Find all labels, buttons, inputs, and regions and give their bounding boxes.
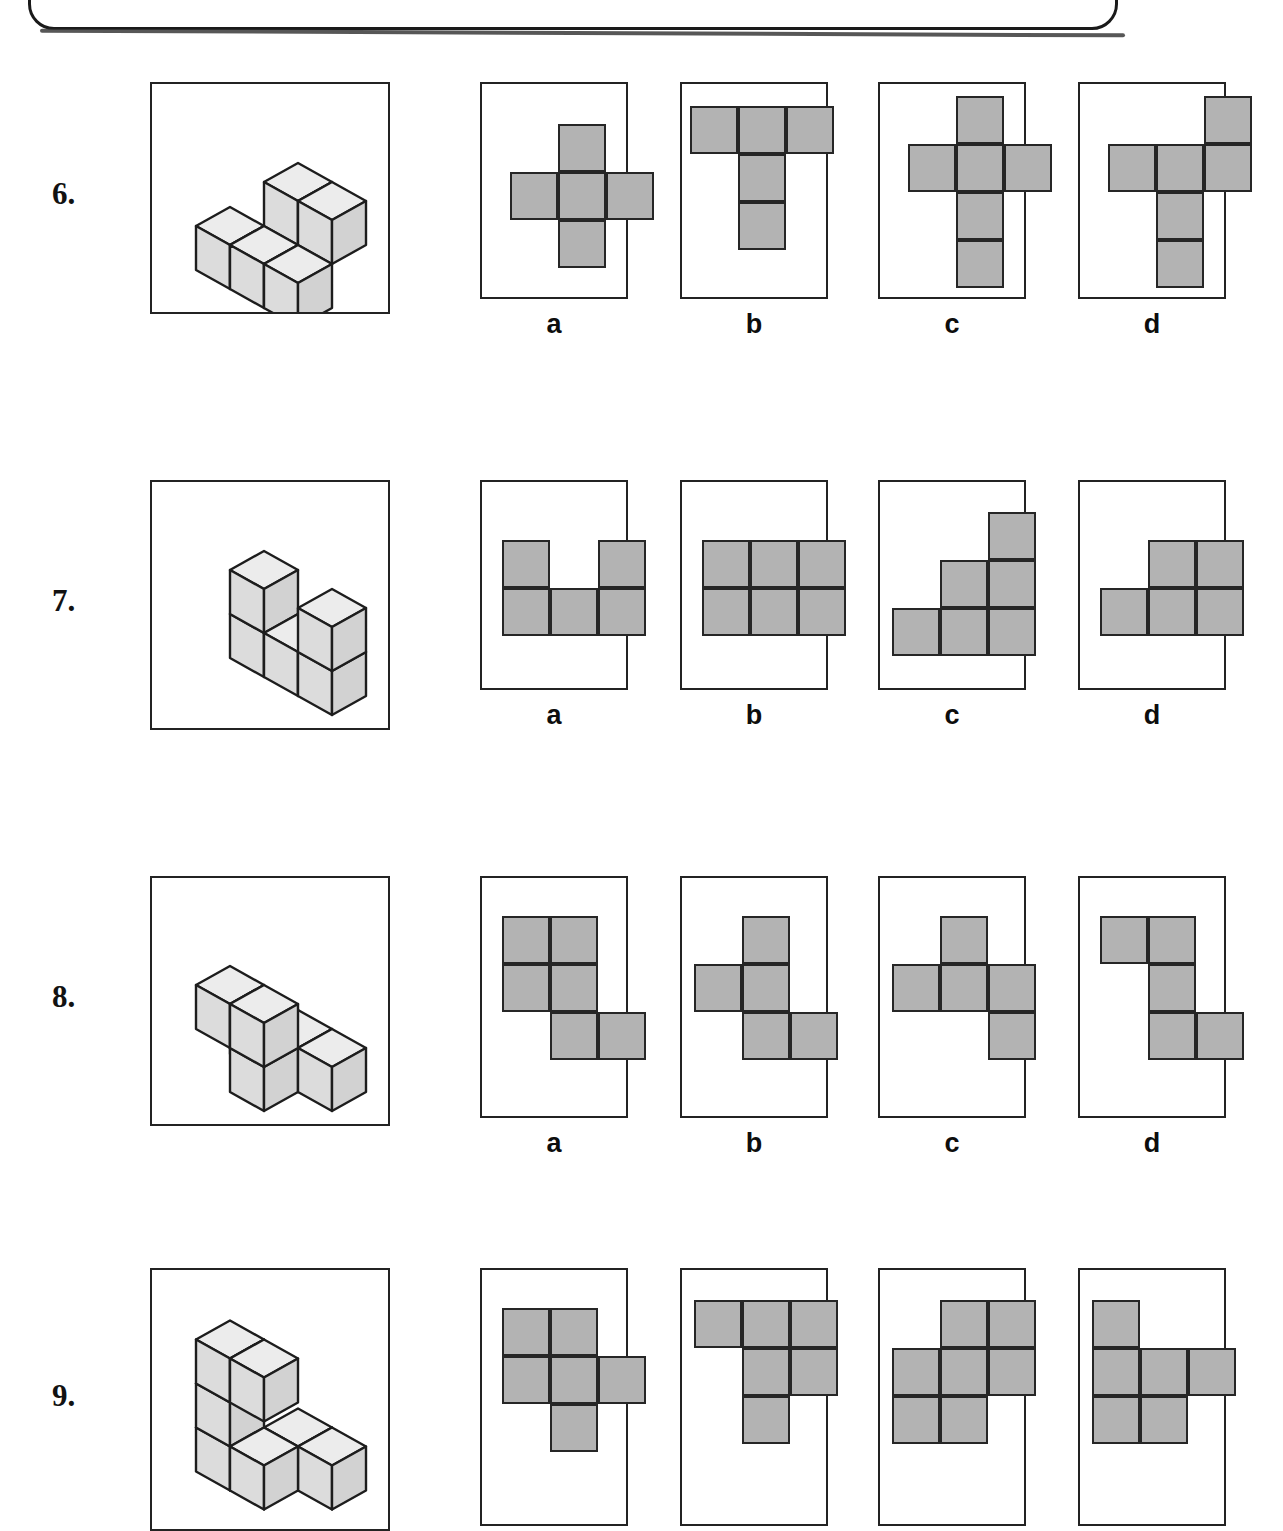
net-cell bbox=[598, 540, 646, 588]
question-number-9: 9. bbox=[52, 1378, 75, 1414]
option-label-6-d: d bbox=[1132, 309, 1172, 340]
option-label-8-c: c bbox=[932, 1128, 972, 1159]
net-cell bbox=[694, 1300, 742, 1348]
option-label-6-c: c bbox=[932, 309, 972, 340]
option-box-7-b[interactable] bbox=[680, 480, 828, 690]
net-cell bbox=[558, 124, 606, 172]
question-number-6: 6. bbox=[52, 176, 75, 212]
net-cell bbox=[598, 1356, 646, 1404]
net-cell bbox=[738, 106, 786, 154]
net-cell bbox=[892, 964, 940, 1012]
net-cell bbox=[1140, 1396, 1188, 1444]
net-cell bbox=[742, 916, 790, 964]
net-cell bbox=[558, 220, 606, 268]
net-cell bbox=[940, 1348, 988, 1396]
question-number-8: 8. bbox=[52, 979, 75, 1015]
net-cell bbox=[510, 172, 558, 220]
net-cell bbox=[790, 1012, 838, 1060]
net-cell bbox=[702, 540, 750, 588]
net-cell bbox=[956, 144, 1004, 192]
figure-box-8 bbox=[150, 876, 390, 1126]
net-cell bbox=[1004, 144, 1052, 192]
net-cell bbox=[558, 172, 606, 220]
net-cell bbox=[956, 240, 1004, 288]
option-box-6-d[interactable] bbox=[1078, 82, 1226, 299]
net-cell bbox=[502, 540, 550, 588]
option-label-7-d: d bbox=[1132, 700, 1172, 731]
net-cell bbox=[988, 1348, 1036, 1396]
net-cell bbox=[1204, 96, 1252, 144]
option-box-7-d[interactable] bbox=[1078, 480, 1226, 690]
net-cell bbox=[1148, 916, 1196, 964]
question-number-7: 7. bbox=[52, 583, 75, 619]
net-cell bbox=[1204, 144, 1252, 192]
net-cell bbox=[502, 588, 550, 636]
net-cell bbox=[750, 540, 798, 588]
option-box-9-d[interactable] bbox=[1078, 1268, 1226, 1526]
net-cell bbox=[606, 172, 654, 220]
net-cell bbox=[1196, 1012, 1244, 1060]
isometric-cube-stack-8 bbox=[152, 878, 388, 1124]
net-cell bbox=[550, 1404, 598, 1452]
net-cell bbox=[1100, 916, 1148, 964]
option-box-9-c[interactable] bbox=[878, 1268, 1026, 1526]
net-cell bbox=[988, 1300, 1036, 1348]
figure-box-6 bbox=[150, 82, 390, 314]
net-cell bbox=[550, 1308, 598, 1356]
net-cell bbox=[1156, 192, 1204, 240]
net-cell bbox=[1108, 144, 1156, 192]
net-cell bbox=[1156, 144, 1204, 192]
option-label-8-d: d bbox=[1132, 1128, 1172, 1159]
net-cell bbox=[1092, 1300, 1140, 1348]
net-cell bbox=[940, 916, 988, 964]
net-cell bbox=[892, 1348, 940, 1396]
option-box-6-a[interactable] bbox=[480, 82, 628, 299]
net-cell bbox=[1148, 588, 1196, 636]
option-box-9-a[interactable] bbox=[480, 1268, 628, 1526]
top-banner-frame bbox=[28, 0, 1118, 30]
option-label-7-c: c bbox=[932, 700, 972, 731]
option-box-6-c[interactable] bbox=[878, 82, 1026, 299]
option-box-7-a[interactable] bbox=[480, 480, 628, 690]
net-cell bbox=[892, 1396, 940, 1444]
net-cell bbox=[798, 540, 846, 588]
net-cell bbox=[502, 916, 550, 964]
isometric-cube-stack-6 bbox=[152, 84, 388, 312]
net-cell bbox=[892, 608, 940, 656]
option-box-7-c[interactable] bbox=[878, 480, 1026, 690]
net-cell bbox=[1156, 240, 1204, 288]
net-cell bbox=[550, 916, 598, 964]
net-cell bbox=[908, 144, 956, 192]
option-box-8-c[interactable] bbox=[878, 876, 1026, 1118]
option-label-6-b: b bbox=[734, 309, 774, 340]
net-cell bbox=[1092, 1348, 1140, 1396]
net-cell bbox=[742, 1348, 790, 1396]
option-label-8-b: b bbox=[734, 1128, 774, 1159]
net-cell bbox=[502, 1308, 550, 1356]
net-cell bbox=[742, 1396, 790, 1444]
net-cell bbox=[598, 1012, 646, 1060]
net-cell bbox=[940, 964, 988, 1012]
option-label-7-a: a bbox=[534, 700, 574, 731]
net-cell bbox=[1188, 1348, 1236, 1396]
option-box-6-b[interactable] bbox=[680, 82, 828, 299]
net-cell bbox=[786, 106, 834, 154]
net-cell bbox=[988, 964, 1036, 1012]
net-cell bbox=[550, 588, 598, 636]
net-cell bbox=[988, 608, 1036, 656]
option-box-8-a[interactable] bbox=[480, 876, 628, 1118]
net-cell bbox=[988, 560, 1036, 608]
net-cell bbox=[956, 96, 1004, 144]
net-cell bbox=[1100, 588, 1148, 636]
net-cell bbox=[550, 1356, 598, 1404]
option-box-8-d[interactable] bbox=[1078, 876, 1226, 1118]
option-box-9-b[interactable] bbox=[680, 1268, 828, 1526]
net-cell bbox=[1148, 540, 1196, 588]
option-label-7-b: b bbox=[734, 700, 774, 731]
figure-box-9 bbox=[150, 1268, 390, 1531]
option-box-8-b[interactable] bbox=[680, 876, 828, 1118]
net-cell bbox=[702, 588, 750, 636]
net-cell bbox=[750, 588, 798, 636]
net-cell bbox=[598, 588, 646, 636]
net-cell bbox=[1196, 588, 1244, 636]
